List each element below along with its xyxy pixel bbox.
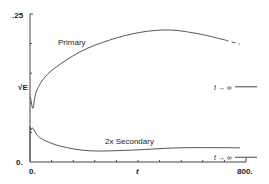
x-tick-label-right: 800.: [237, 167, 253, 176]
y-tick-label-top: .25: [12, 11, 24, 20]
x-axis-label: t: [136, 167, 139, 176]
asymptote-label-primary: t → ∞: [214, 84, 232, 91]
series-primary-dashed-tail: [225, 40, 240, 44]
chart-container: .25 √E 0. 0. t 800. Primary 2x Secondary…: [0, 0, 269, 184]
x-tick-label-left: 0.: [29, 167, 36, 176]
series-label-secondary: 2x Secondary: [105, 137, 154, 146]
asymptote-label-secondary: t → ∞: [214, 154, 232, 161]
series-label-primary: Primary: [58, 38, 86, 47]
y-axis-label: √E: [18, 83, 28, 92]
line-chart: .25 √E 0. 0. t 800. Primary 2x Secondary…: [0, 0, 269, 184]
y-tick-label-bottom: 0.: [16, 158, 23, 167]
